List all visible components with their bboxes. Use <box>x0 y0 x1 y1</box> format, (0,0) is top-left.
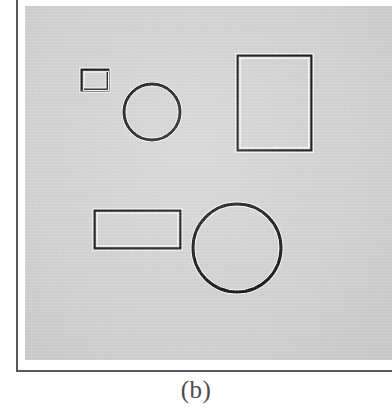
large-circle <box>193 204 281 292</box>
small-rectangle <box>82 70 108 90</box>
wide-rectangle <box>95 211 180 248</box>
page-border-bottom-rule <box>16 370 392 372</box>
large-rectangle <box>238 56 311 150</box>
page-border-left-rule <box>16 0 18 372</box>
figure-caption: (b) <box>0 376 392 404</box>
gray-image-plate <box>25 6 392 360</box>
shape-layer <box>25 6 392 360</box>
small-circle <box>124 84 180 140</box>
figure-panel-b: (b) <box>0 0 392 411</box>
